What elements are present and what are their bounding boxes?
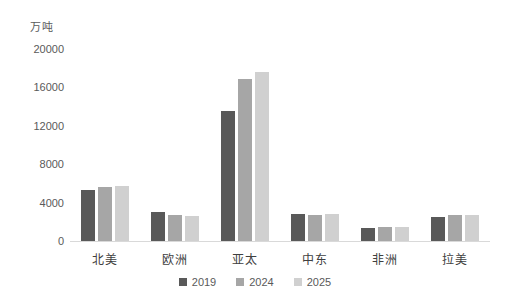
bar-2019-亚太[interactable] [221,111,235,241]
bar-group [280,49,350,241]
y-axis-tick-labels: 040008000120001600020000 [0,0,64,308]
legend-swatch-icon [179,278,187,286]
bar-2025-北美[interactable] [115,186,129,241]
legend-label: 2019 [192,276,216,288]
bar-2025-亚太[interactable] [255,72,269,241]
y-axis-tick-label: 4000 [4,197,64,209]
y-axis-tick-label: 12000 [4,120,64,132]
bar-chart: 万吨 040008000120001600020000 北美欧洲亚太中东非洲拉美… [0,0,510,308]
bars-layer [70,49,490,241]
legend-label: 2025 [307,276,331,288]
bar-group [70,49,140,241]
x-axis-category-labels: 北美欧洲亚太中东非洲拉美 [70,250,490,270]
y-axis-tick-label: 8000 [4,158,64,170]
legend-label: 2024 [249,276,273,288]
bar-group [350,49,420,241]
x-axis-category-label: 亚太 [210,250,280,267]
x-axis-category-label: 拉美 [420,250,490,267]
bar-group [420,49,490,241]
x-axis-category-label: 中东 [280,250,350,267]
x-axis-category-label: 欧洲 [140,250,210,267]
y-axis-tick-label: 16000 [4,81,64,93]
chart-legend: 201920242025 [0,276,510,288]
bar-2024-中东[interactable] [308,215,322,241]
bar-2019-非洲[interactable] [361,228,375,241]
x-axis-line [70,241,490,242]
legend-swatch-icon [294,278,302,286]
bar-group [210,49,280,241]
bar-2024-北美[interactable] [98,187,112,241]
y-axis-tick-label: 20000 [4,43,64,55]
bar-group [140,49,210,241]
legend-item-2019[interactable]: 2019 [179,276,216,288]
bar-2024-非洲[interactable] [378,227,392,241]
y-axis-tick-label: 0 [4,235,64,247]
bar-2019-中东[interactable] [291,214,305,241]
bar-2024-欧洲[interactable] [168,215,182,241]
bar-2019-拉美[interactable] [431,217,445,241]
bar-2025-非洲[interactable] [395,227,409,241]
legend-swatch-icon [236,278,244,286]
bar-2019-北美[interactable] [81,190,95,241]
bar-2024-亚太[interactable] [238,79,252,241]
bar-2025-欧洲[interactable] [185,216,199,241]
bar-2024-拉美[interactable] [448,215,462,241]
x-axis-category-label: 北美 [70,250,140,267]
legend-item-2025[interactable]: 2025 [294,276,331,288]
bar-2025-拉美[interactable] [465,215,479,241]
x-axis-category-label: 非洲 [350,250,420,267]
legend-item-2024[interactable]: 2024 [236,276,273,288]
bar-2025-中东[interactable] [325,214,339,241]
bar-2019-欧洲[interactable] [151,212,165,241]
